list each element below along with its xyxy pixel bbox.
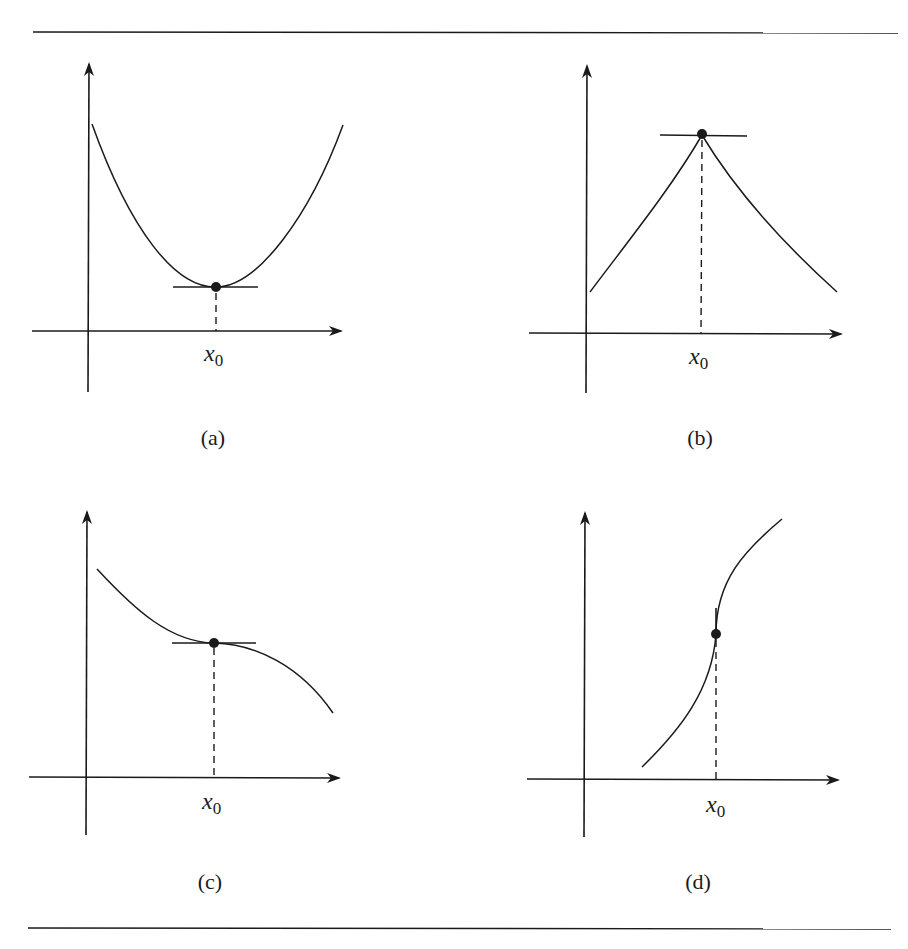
x0-label: x0 xyxy=(705,791,725,821)
y-axis xyxy=(86,512,87,835)
y-axis xyxy=(88,64,89,392)
panel-caption: (a) xyxy=(201,425,225,450)
critical-point xyxy=(209,638,219,648)
x-axis xyxy=(529,333,841,334)
x-axis xyxy=(29,777,339,778)
panel-c: x0 (c) xyxy=(29,512,339,894)
curve xyxy=(92,124,343,287)
curve-upper xyxy=(716,519,782,634)
panel-caption: (c) xyxy=(198,869,222,894)
panel-d: x0 (d) xyxy=(527,513,838,894)
x-axis xyxy=(527,779,838,780)
panel-a: x0 (a) xyxy=(32,64,343,450)
y-axis xyxy=(584,513,585,837)
panel-b: x0 (b) xyxy=(529,66,841,450)
figure-canvas: x0 (a) x0 (b) x0 (c) x0 (d) xyxy=(0,0,908,949)
bottom-rule xyxy=(28,928,891,929)
x0-label: x0 xyxy=(201,788,221,818)
critical-point xyxy=(711,629,721,639)
curve-left xyxy=(590,135,702,292)
panel-caption: (b) xyxy=(687,425,713,450)
critical-point xyxy=(211,282,221,292)
panel-caption: (d) xyxy=(685,869,711,894)
dashed-guide xyxy=(701,140,702,333)
critical-point xyxy=(697,129,707,139)
curve-right xyxy=(702,135,837,292)
y-axis xyxy=(586,66,587,393)
curve-lower xyxy=(642,634,716,767)
top-rule xyxy=(33,32,898,33)
x0-label: x0 xyxy=(203,340,223,370)
x0-label: x0 xyxy=(688,343,708,373)
